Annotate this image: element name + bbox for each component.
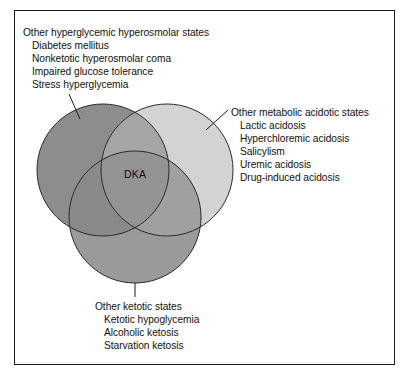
label-item-hyperglycemic-1: Nonketotic hyperosmolar coma [32,52,209,65]
label-heading-hyperglycemic: Other hyperglycemic hyperosmolar states [23,26,209,39]
label-item-acidotic-2: Salicylism [240,145,369,158]
label-item-acidotic-0: Lactic acidosis [240,119,369,132]
label-block-hyperglycemic: Other hyperglycemic hyperosmolar states … [23,26,209,91]
label-heading-acidotic: Other metabolic acidotic states [231,106,369,119]
venn-diagram-page: DKA Other hyperglycemic hyperosmolar sta… [0,0,410,378]
label-item-hyperglycemic-3: Stress hyperglycemia [32,78,209,91]
label-block-acidotic: Other metabolic acidotic states Lactic a… [231,106,369,184]
label-item-ketotic-2: Starvation ketosis [104,339,199,352]
label-item-acidotic-3: Uremic acidosis [240,158,369,171]
label-item-acidotic-1: Hyperchloremic acidosis [240,132,369,145]
label-block-ketotic: Other ketotic states Ketotic hypoglycemi… [95,300,199,352]
label-item-ketotic-1: Alcoholic ketosis [104,326,199,339]
dka-center-label: DKA [124,168,146,180]
label-item-hyperglycemic-0: Diabetes mellitus [32,39,209,52]
label-heading-ketotic: Other ketotic states [95,300,199,313]
label-item-hyperglycemic-2: Impaired glucose tolerance [32,65,209,78]
label-item-ketotic-0: Ketotic hypoglycemia [104,313,199,326]
label-item-acidotic-4: Drug-induced acidosis [240,171,369,184]
